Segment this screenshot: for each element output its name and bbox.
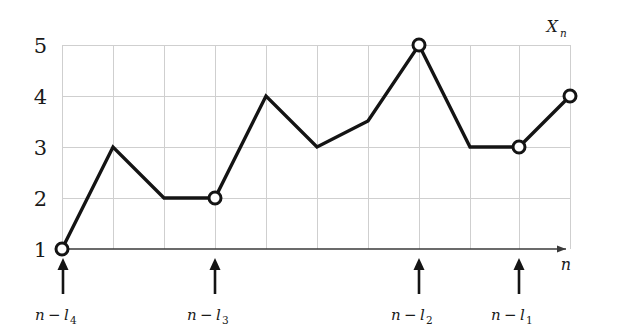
data-point-marker-current[interactable] bbox=[564, 90, 576, 102]
lag-label-n-minus-l2-minus: − bbox=[404, 306, 417, 324]
lag-labels: n − l 4 n − l 3 n − l 2 n − l 1 bbox=[35, 306, 533, 326]
lag-label-n-minus-l2-base: n bbox=[391, 306, 401, 324]
data-point-marker-n-minus-l4[interactable] bbox=[56, 243, 68, 255]
series-axis-label: X n bbox=[545, 17, 567, 39]
lag-label-n-minus-l3-lag: l bbox=[216, 306, 221, 324]
data-point-marker-n-minus-l1[interactable] bbox=[513, 141, 525, 153]
y-tick-label-4: 4 bbox=[34, 85, 47, 109]
x-axis bbox=[62, 245, 566, 252]
y-tick-label-3: 3 bbox=[34, 136, 47, 160]
lag-arrow-n-minus-l3[interactable] bbox=[210, 258, 221, 294]
data-point-marker-n-minus-l2[interactable] bbox=[413, 39, 425, 51]
lag-label-n-minus-l2: n − l 2 bbox=[391, 306, 433, 326]
lag-arrow-n-minus-l1[interactable] bbox=[514, 258, 525, 294]
x-axis-name: n bbox=[561, 255, 571, 274]
lag-label-n-minus-l3-minus: − bbox=[200, 306, 213, 324]
lag-label-n-minus-l1-lag: l bbox=[520, 306, 525, 324]
y-tick-label-2: 2 bbox=[34, 187, 47, 211]
y-axis-tick-labels: 5 4 3 2 1 bbox=[34, 34, 47, 262]
data-point-marker-n-minus-l3[interactable] bbox=[209, 192, 221, 204]
chart-figure: 5 4 3 2 1 X n n bbox=[0, 0, 618, 329]
series-axis-label-base: X bbox=[545, 17, 559, 36]
y-tick-label-5: 5 bbox=[34, 34, 47, 58]
lag-label-n-minus-l4: n − l 4 bbox=[35, 306, 77, 326]
lag-label-n-minus-l3: n − l 3 bbox=[187, 306, 229, 326]
lag-label-n-minus-l3-subscript: 3 bbox=[222, 314, 229, 326]
lag-label-n-minus-l4-lag: l bbox=[64, 306, 69, 324]
line-chart-svg: 5 4 3 2 1 X n n bbox=[0, 0, 618, 329]
series-axis-label-subscript: n bbox=[560, 27, 567, 39]
lag-label-n-minus-l1-minus: − bbox=[504, 306, 517, 324]
lag-arrow-n-minus-l2[interactable] bbox=[414, 258, 425, 294]
lag-label-n-minus-l4-subscript: 4 bbox=[70, 314, 77, 326]
lag-arrow-n-minus-l4[interactable] bbox=[58, 258, 69, 294]
y-tick-label-1: 1 bbox=[34, 238, 47, 262]
x-axis-arrowhead-icon bbox=[557, 245, 566, 252]
lag-label-n-minus-l4-minus: − bbox=[48, 306, 61, 324]
lag-label-n-minus-l1: n − l 1 bbox=[491, 306, 533, 326]
lag-arrows bbox=[58, 258, 525, 294]
lag-label-n-minus-l3-base: n bbox=[187, 306, 197, 324]
lag-label-n-minus-l1-subscript: 1 bbox=[526, 314, 533, 326]
lag-label-n-minus-l2-subscript: 2 bbox=[426, 314, 433, 326]
lag-label-n-minus-l1-base: n bbox=[491, 306, 501, 324]
lag-label-n-minus-l2-lag: l bbox=[420, 306, 425, 324]
lag-label-n-minus-l4-base: n bbox=[35, 306, 45, 324]
